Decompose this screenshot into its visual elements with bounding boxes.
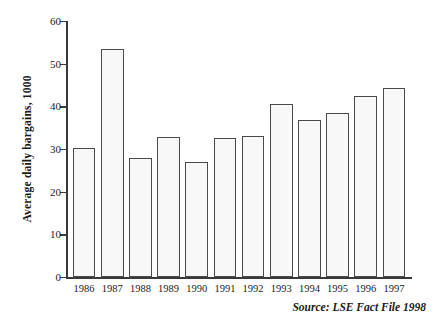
x-axis-line (66, 277, 412, 279)
y-axis-tick-label: 0 (56, 269, 62, 285)
x-axis-tick-label: 1997 (379, 283, 410, 294)
bar (383, 88, 406, 277)
bar (326, 113, 349, 277)
x-axis-tick-label: 1994 (294, 283, 325, 294)
bar (157, 137, 180, 277)
bar (298, 120, 321, 277)
y-axis-tick-label: 20 (50, 184, 61, 200)
y-axis-tick-label: 60 (50, 13, 61, 29)
y-axis-tick-mark (60, 64, 68, 65)
x-axis-tick-label: 1993 (266, 283, 297, 294)
x-axis-tick-label: 1987 (97, 283, 128, 294)
bar-chart: Average daily bargains, 1000 01020304050… (0, 0, 435, 317)
x-axis-tick-label: 1989 (153, 283, 184, 294)
bar (214, 138, 237, 277)
x-axis-tick-label: 1986 (69, 283, 100, 294)
y-axis-tick-mark (60, 106, 68, 107)
bar (185, 162, 208, 277)
x-axis-tick-label: 1988 (125, 283, 156, 294)
bar (73, 148, 96, 277)
y-axis-tick-label: 40 (50, 98, 61, 114)
y-axis-tick-label: 30 (50, 141, 61, 157)
bar (129, 158, 152, 277)
y-axis-tick-mark (60, 234, 68, 235)
x-axis-tick-label: 1995 (322, 283, 353, 294)
source-note: Source: LSE Fact File 1998 (292, 301, 426, 313)
y-axis-tick-mark (60, 149, 68, 150)
y-axis-tick-label: 50 (50, 56, 61, 72)
y-axis-tick-mark (60, 277, 68, 278)
x-axis-tick-label: 1992 (238, 283, 269, 294)
bar (270, 104, 293, 277)
y-axis-title: Average daily bargains, 1000 (18, 14, 36, 284)
x-axis-tick-label: 1990 (181, 283, 212, 294)
x-axis-tick-label: 1996 (350, 283, 381, 294)
bar (354, 96, 377, 277)
x-axis-tick-label: 1991 (210, 283, 241, 294)
y-axis-tick-mark (60, 21, 68, 22)
bar (101, 49, 124, 277)
plot-area: 0102030405060 19861987198819891990199119… (66, 21, 412, 277)
y-axis-tick-mark (60, 192, 68, 193)
y-axis-tick-label: 10 (50, 226, 61, 242)
bar (242, 136, 265, 277)
